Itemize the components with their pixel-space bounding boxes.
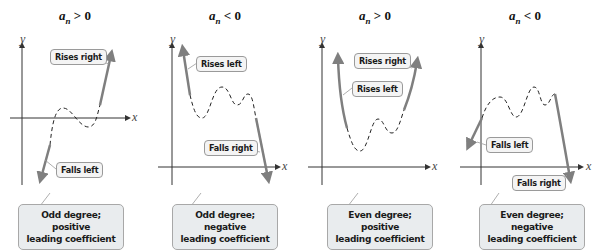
tag-falls-left: Falls left [56,162,103,178]
y-axis-label: y [170,32,175,47]
dashed-curve [482,87,555,118]
x-axis-label: x [586,159,591,174]
panel-odd-negative: an < 0 y x Rises left Falls right Odd de… [150,0,300,245]
summary-box: Odd degree; positive leading coefficient [18,204,124,250]
y-axis-label: y [320,32,325,47]
rises-left-arrow [183,50,190,95]
dashed-curve [347,110,404,151]
tag-rises-right: Rises right [50,49,107,65]
rises-right-arrow [404,62,417,110]
summary-box: Even degree; negative leading coefficien… [479,204,585,250]
falls-right-arrow [256,118,268,178]
summary-box: Odd degree; negative leading coefficient [172,204,278,250]
tag-rises-left: Rises left [352,81,403,97]
tag-rises-left: Rises left [196,56,247,72]
panel-odd-positive: an > 0 y x Rises right Falls left Odd de… [0,0,150,245]
falls-right-arrow [555,94,570,178]
y-axis-label: y [479,32,484,47]
x-axis-label: x [282,159,287,174]
tag-rises-right: Rises right [354,53,411,69]
dashed-curve [50,105,100,145]
tag-falls-right: Falls right [204,140,258,156]
summary-box: Even degree; positive leading coefficien… [327,204,433,250]
falls-left-arrow [41,145,50,178]
x-axis-label: x [432,159,437,174]
panel-even-negative: an < 0 y x Falls left Falls right Even d… [450,0,599,245]
dashed-curve [190,87,256,118]
tag-falls-right: Falls right [512,175,566,191]
x-axis-label: x [132,110,137,125]
tag-falls-left: Falls left [486,137,533,153]
y-axis-label: y [20,32,25,47]
falls-left-arrow [469,118,482,145]
panel-even-positive: an > 0 y x Rises right Rises left Even d… [300,0,450,245]
